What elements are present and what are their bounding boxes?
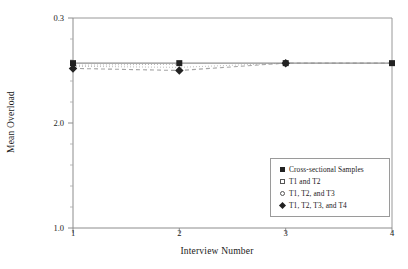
- y-tick-label-mid: 2.0: [38, 118, 64, 128]
- chart-legend: Cross-sectional Samples T1 and T2 T1, T2…: [270, 158, 390, 217]
- legend-label: Cross-sectional Samples: [289, 165, 364, 174]
- legend-item-t1-t4: T1, T2, T3, and T4: [276, 200, 383, 211]
- x-axis-title: Interview Number: [0, 246, 408, 256]
- open-square-icon: [276, 179, 289, 184]
- y-tick-label-top: 0.3: [38, 13, 64, 23]
- x-tick-label-1: 1: [62, 228, 84, 238]
- x-tick-label-4: 4: [381, 228, 403, 238]
- legend-item-t1-t2: T1 and T2: [276, 176, 383, 187]
- x-tick-label-3: 3: [275, 228, 297, 238]
- legend-label: T1, T2, and T3: [289, 189, 335, 198]
- open-circle-icon: [276, 191, 289, 197]
- x-axis-title-text: Interview Number: [180, 246, 253, 256]
- series-line-t1-t2: [73, 64, 179, 65]
- filled-diamond-icon: [276, 203, 289, 208]
- y-axis-title: Mean Overload: [6, 0, 16, 62]
- legend-label: T1, T2, T3, and T4: [289, 201, 347, 210]
- series-line-t1-t4: [73, 63, 392, 70]
- y-axis-title-text: Mean Overload: [6, 62, 16, 182]
- x-tick-labels: 1 2 3 4: [0, 228, 408, 242]
- x-tick-label-2: 2: [168, 228, 190, 238]
- legend-label: T1 and T2: [289, 177, 321, 186]
- legend-item-cross-sectional: Cross-sectional Samples: [276, 164, 383, 175]
- legend-item-t1-t2-t3: T1, T2, and T3: [276, 188, 383, 199]
- chart-figure: 0.3 2.0 1.0 1 2 3 4 Mean Overload Interv…: [0, 0, 408, 269]
- filled-square-icon: [276, 167, 289, 172]
